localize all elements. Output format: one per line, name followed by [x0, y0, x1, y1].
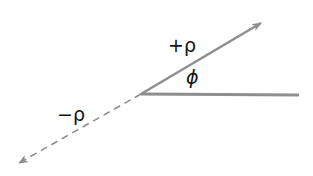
angle-phi-label: ϕ	[186, 66, 199, 88]
negative-rho-label: −ρ	[57, 103, 85, 125]
reference-axis-line	[141, 94, 299, 95]
polar-axis-diagram: +ρ ϕ −ρ	[0, 0, 313, 176]
positive-rho-label: +ρ	[168, 34, 196, 56]
positive-rho-arrow	[141, 23, 261, 94]
